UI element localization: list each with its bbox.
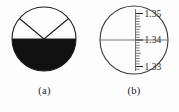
figure-panel-a: (a)	[0, 0, 89, 112]
tick-label-133: 1.33	[145, 62, 162, 72]
radial-line-right	[44, 19, 69, 40]
tick-label-134: 1.34	[145, 35, 162, 45]
filled-lower-half	[10, 39, 78, 79]
figure-root: (a)	[0, 0, 179, 112]
panel-b-caption: (b)	[89, 84, 179, 98]
panel-a-caption: (a)	[0, 84, 89, 98]
tick-label-135: 1.35	[145, 9, 162, 19]
radial-line-left	[19, 19, 44, 40]
minor-ticks-upper	[136, 16, 142, 37]
panel-a-drawing	[0, 0, 89, 86]
minor-ticks-lower	[136, 43, 142, 64]
panel-b-drawing: 1.35 1.34 1.33	[89, 0, 179, 86]
figure-panel-b: 1.35 1.34 1.33 (b)	[89, 0, 179, 112]
